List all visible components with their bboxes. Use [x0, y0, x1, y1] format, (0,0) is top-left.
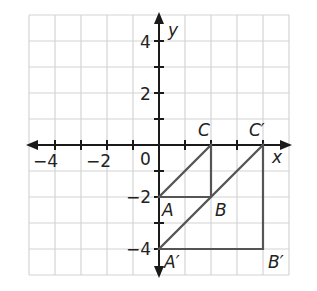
point-label-b-prime: B′ [268, 252, 284, 272]
point-label-a: A [161, 200, 174, 220]
y-tick-label-neg2: −2 [126, 187, 151, 207]
arrow-down-icon [154, 266, 164, 278]
origin-label: 0 [140, 149, 151, 169]
y-axis-label: y [167, 20, 179, 40]
arrow-left-icon [26, 140, 38, 150]
y-tick-label-4: 4 [140, 32, 151, 52]
point-label-c: C [198, 120, 210, 140]
point-label-c-prime: C′ [249, 120, 265, 140]
arrow-up-icon [154, 12, 164, 24]
x-axis-label: x [271, 147, 283, 167]
coordinate-plane: y x 4 2 −2 −4 −4 −2 0 C C′ A B A′ B′ [0, 0, 317, 291]
point-label-b: B [215, 200, 227, 220]
x-tick-label-neg2: −2 [86, 151, 111, 171]
y-tick-label-neg4: −4 [126, 239, 151, 259]
x-tick-label-neg4: −4 [33, 151, 58, 171]
point-label-a-prime: A′ [163, 252, 180, 272]
y-tick-label-2: 2 [140, 84, 151, 104]
